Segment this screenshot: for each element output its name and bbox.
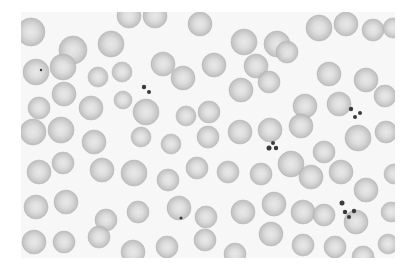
red-blood-cell [112,62,132,82]
red-blood-cell [127,201,149,223]
red-blood-cell [250,163,272,185]
red-blood-cell [22,230,46,254]
red-blood-cell [317,62,341,86]
red-blood-cell [23,59,49,85]
red-blood-cell [262,192,286,216]
red-blood-cell [50,54,76,80]
platelet [142,85,146,89]
red-blood-cell [90,158,114,182]
platelet [267,146,272,151]
red-blood-cell [54,190,78,214]
red-blood-cell [324,236,346,258]
platelet [349,107,353,111]
red-blood-cell [291,200,315,224]
red-blood-cell [306,15,332,41]
image-frame [0,0,416,272]
platelet [274,146,278,150]
red-blood-cell [362,19,384,41]
platelet [353,115,357,119]
red-blood-cell [229,78,253,102]
red-blood-cell [354,178,378,202]
red-blood-cell [231,200,255,224]
red-blood-cell [133,99,159,125]
platelet [340,201,345,206]
red-blood-cell [313,141,335,163]
red-blood-cell [334,12,358,36]
red-blood-cell [79,96,103,120]
red-blood-cell [345,125,371,151]
red-blood-cell [27,160,51,184]
red-blood-cell [198,101,220,123]
red-blood-cell [259,222,283,246]
red-blood-cell [231,29,257,55]
platelet [352,209,356,213]
red-blood-cell [53,231,75,253]
red-blood-cell [21,119,46,145]
red-blood-cell [276,41,298,63]
red-blood-cell [88,226,110,248]
red-blood-cell [327,92,351,116]
platelet [147,90,151,94]
red-blood-cell [167,196,191,220]
red-blood-cell [48,117,74,143]
platelet [271,141,275,145]
red-blood-cell [228,120,252,144]
red-blood-cell [329,160,353,184]
platelet [343,210,347,214]
red-blood-cell [344,210,368,234]
red-blood-cell [52,82,76,106]
red-blood-cell [289,114,313,138]
red-blood-cell [217,161,239,183]
platelet [358,111,362,115]
red-blood-cell [258,118,282,142]
red-blood-cell [121,160,147,186]
red-blood-cell [188,12,212,36]
red-blood-cell [157,169,179,191]
platelet [180,217,183,220]
red-blood-cell [161,134,181,154]
red-blood-cell [98,31,124,57]
red-blood-cell [24,195,48,219]
red-blood-cell [194,229,216,251]
red-blood-cell [82,130,106,154]
red-blood-cell [258,71,280,93]
red-blood-cell [299,165,323,189]
red-blood-cell [131,127,151,147]
red-blood-cell [52,152,74,174]
red-blood-cell [374,85,395,107]
blood-smear-micrograph [21,12,395,258]
red-blood-cell [378,234,395,254]
smear-canvas [21,12,395,258]
red-blood-cell [354,68,378,92]
platelet [40,69,42,71]
red-blood-cell [375,121,395,143]
red-blood-cell [156,236,178,258]
red-blood-cell [176,106,196,126]
red-blood-cell [171,66,195,90]
red-blood-cell [88,67,108,87]
red-blood-cell [21,18,45,46]
red-blood-cell [151,52,175,76]
red-blood-cell [114,91,132,109]
red-blood-cell [202,53,226,77]
red-blood-cell [195,206,217,228]
red-blood-cell [313,204,335,226]
red-blood-cell [28,97,50,119]
red-blood-cell [292,234,314,256]
red-blood-cell [197,126,219,148]
platelet [347,215,351,219]
red-blood-cell [186,157,208,179]
